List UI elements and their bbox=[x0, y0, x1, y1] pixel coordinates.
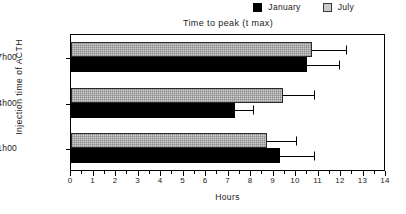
bar-group bbox=[71, 81, 384, 127]
x-axis-minor-tick bbox=[216, 171, 217, 174]
y-axis-tick bbox=[66, 149, 71, 150]
x-axis-tick-label: 4 bbox=[158, 176, 163, 185]
error-bar-cap bbox=[314, 151, 315, 160]
x-axis-tick-label: 8 bbox=[248, 176, 253, 185]
legend-label-july: July bbox=[338, 2, 354, 12]
bar-july-07h00 bbox=[71, 42, 312, 57]
error-bar-cap bbox=[253, 106, 254, 115]
x-axis-minor-tick bbox=[171, 171, 172, 174]
x-axis-tick-label: 7 bbox=[225, 176, 230, 185]
x-axis-minor-tick bbox=[81, 171, 82, 174]
chart-legend: January July bbox=[0, 2, 406, 12]
error-bar-line bbox=[267, 141, 296, 142]
error-bar-cap bbox=[314, 91, 315, 100]
chart-figure: January July Time to peak (t max) Inject… bbox=[0, 0, 406, 214]
x-axis-minor-tick bbox=[126, 171, 127, 174]
error-bar-cap bbox=[296, 136, 297, 145]
x-axis-tick-label: 10 bbox=[290, 176, 299, 185]
x-axis-tick-label: 12 bbox=[335, 176, 344, 185]
x-axis-tick-label: 5 bbox=[180, 176, 185, 185]
y-axis-tick-label: 07h00 bbox=[0, 52, 17, 62]
x-axis-minor-tick bbox=[284, 171, 285, 174]
error-bar-line bbox=[312, 50, 346, 51]
x-axis-minor-tick bbox=[239, 171, 240, 174]
error-bar-cap bbox=[339, 60, 340, 69]
x-axis-minor-tick bbox=[104, 171, 105, 174]
y-axis-title: Injection time of ACTH bbox=[14, 12, 24, 162]
x-axis-minor-tick bbox=[351, 171, 352, 174]
x-axis-tick-label: 14 bbox=[380, 176, 389, 185]
x-axis-tick-label: 2 bbox=[113, 176, 118, 185]
x-axis-title: Hours bbox=[70, 192, 385, 202]
x-axis-tick-label: 6 bbox=[203, 176, 208, 185]
bar-group bbox=[71, 35, 384, 81]
chart-title: Time to peak (t max) bbox=[70, 18, 386, 28]
x-axis-tick-labels: 01234567891011121314 bbox=[0, 176, 406, 188]
error-bar-line bbox=[235, 110, 253, 111]
legend-label-january: January bbox=[268, 2, 300, 12]
x-axis-tick-label: 0 bbox=[68, 176, 73, 185]
x-axis-minor-tick bbox=[194, 171, 195, 174]
x-axis-minor-tick bbox=[374, 171, 375, 174]
error-bar-line bbox=[307, 65, 339, 66]
bar-january-21h00 bbox=[71, 148, 280, 163]
x-axis-minor-tick bbox=[261, 171, 262, 174]
legend-item-january: January bbox=[253, 2, 300, 12]
black-square-icon bbox=[253, 3, 262, 12]
bar-july-21h00 bbox=[71, 133, 267, 148]
plot-area bbox=[70, 34, 385, 171]
error-bar-cap bbox=[346, 45, 347, 54]
gray-square-icon bbox=[323, 3, 332, 12]
plot-inner bbox=[71, 35, 384, 170]
y-axis-tick-label: 21h00 bbox=[0, 143, 17, 153]
x-axis-minor-tick bbox=[306, 171, 307, 174]
x-axis-tick-label: 9 bbox=[270, 176, 275, 185]
bar-january-07h00 bbox=[71, 57, 307, 72]
error-bar-line bbox=[280, 156, 314, 157]
bar-january-14h00 bbox=[71, 103, 235, 118]
y-axis-tick-label: 14h00 bbox=[0, 98, 17, 108]
x-axis-tick-label: 11 bbox=[313, 176, 322, 185]
x-axis-tick-label: 3 bbox=[135, 176, 140, 185]
bar-july-14h00 bbox=[71, 88, 283, 103]
error-bar-line bbox=[283, 95, 315, 96]
x-axis-tick-label: 1 bbox=[90, 176, 95, 185]
bar-group bbox=[71, 126, 384, 172]
x-axis-minor-tick bbox=[149, 171, 150, 174]
y-axis-tick bbox=[66, 58, 71, 59]
x-axis-tick-label: 13 bbox=[358, 176, 367, 185]
y-axis-tick bbox=[66, 104, 71, 105]
x-axis-minor-tick bbox=[329, 171, 330, 174]
legend-item-july: July bbox=[323, 2, 354, 12]
